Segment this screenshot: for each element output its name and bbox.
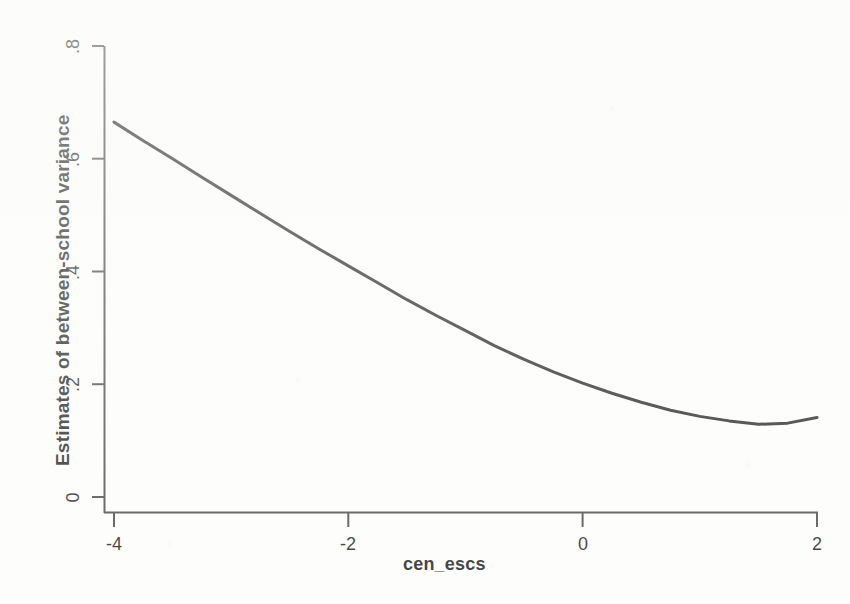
x-tick-label: -4 bbox=[94, 534, 134, 555]
chart-figure: .8 .6 .4 .2 0 -4 -2 0 2 Estimates of bet… bbox=[0, 0, 850, 604]
plot-canvas bbox=[0, 0, 850, 604]
x-axis-ticks bbox=[114, 513, 817, 527]
x-tick-label: 2 bbox=[797, 534, 837, 555]
y-axis-title: Estimates of between-school variance bbox=[52, 115, 74, 466]
y-axis-ticks bbox=[92, 46, 104, 497]
x-tick-label: -2 bbox=[328, 534, 368, 555]
y-tick-label: .8 bbox=[63, 32, 84, 62]
x-axis-title: cen_escs bbox=[403, 554, 486, 575]
x-tick-label: 0 bbox=[563, 534, 603, 555]
data-series-line bbox=[114, 122, 817, 424]
y-tick-label: 0 bbox=[63, 483, 84, 513]
